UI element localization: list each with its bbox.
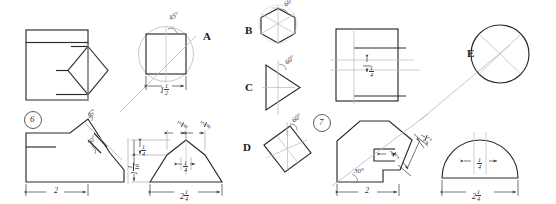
dim-bc-base-den: 4: [184, 196, 189, 202]
problem-number-6: 6: [30, 115, 35, 124]
dim-bottom-center-base: 214: [180, 186, 189, 202]
dim-vert-tall-whole: 1: [130, 171, 139, 175]
dim-center-notch-den: 4: [183, 167, 188, 173]
dim-vert-small-den: 4: [141, 151, 146, 157]
dim-vert-tall-den: 16: [134, 163, 140, 171]
dim-a-width-den: 2: [164, 90, 169, 96]
section-label-d: D: [243, 142, 251, 153]
section-label-c: C: [245, 82, 253, 93]
dim-semi-notch-den: 4: [477, 164, 482, 170]
drawing-sheet: A B C D E 6 7 45° 45° 60° 60° 60° 30° 30…: [0, 0, 556, 204]
section-label-a: A: [203, 31, 211, 42]
dim-a-width-num: 1: [164, 83, 169, 90]
dim-br-base-num: 1: [476, 189, 481, 196]
dim-bottom-right-base: 214: [472, 186, 481, 202]
dim-vert-tall: 1116: [124, 163, 140, 175]
problem-number-7: 7: [319, 118, 324, 127]
dim-semi-notch: 14: [477, 154, 482, 170]
dim-vert-small-num: 1: [141, 144, 146, 151]
dim-p7-base: 2: [365, 187, 369, 195]
dim-center-notch: 14: [183, 157, 188, 173]
section-label-b: B: [245, 25, 252, 36]
dim-semi-notch-num: 1: [477, 157, 482, 164]
dim-top-rect-gap-den: 4: [369, 72, 374, 78]
technical-drawing-canvas: [0, 0, 556, 204]
dim-bc-base-num: 1: [184, 189, 189, 196]
dim-vert-tall-num: 1: [127, 163, 134, 171]
dim-a-width: 112: [160, 80, 169, 96]
p6-top-view: [26, 30, 108, 100]
p6-front-view: [26, 119, 124, 182]
section-label-e: E: [467, 48, 474, 59]
dim-vert-small: 14: [141, 141, 146, 157]
dim-br-base-den: 4: [476, 196, 481, 202]
dim-center-notch-num: 1: [183, 160, 188, 167]
dim-p6-base: 2: [54, 187, 58, 195]
angle-30-p7: 30°: [354, 168, 364, 175]
dim-top-rect-gap: 14: [369, 62, 374, 78]
dim-top-rect-gap-num: 1: [369, 65, 374, 72]
